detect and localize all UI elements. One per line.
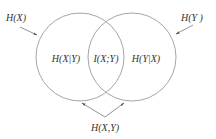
arrow-hy xyxy=(176,25,193,34)
label-hy-given-x: H(Y|X) xyxy=(131,53,161,65)
arrow-hxy-right xyxy=(105,103,124,117)
venn-diagram: H(X) H(Y ) H(X|Y) I(X;Y) H(Y|X) H(X,Y) xyxy=(0,0,216,139)
arrow-hx xyxy=(20,27,37,35)
label-hx: H(X) xyxy=(5,12,27,24)
arrow-hxy-left xyxy=(82,103,105,117)
label-hy: H(Y ) xyxy=(180,12,204,24)
label-hx-given-y: H(X|Y) xyxy=(51,53,81,65)
label-joint-entropy: H(X,Y) xyxy=(90,122,120,134)
label-mutual-info: I(X;Y) xyxy=(93,53,120,65)
